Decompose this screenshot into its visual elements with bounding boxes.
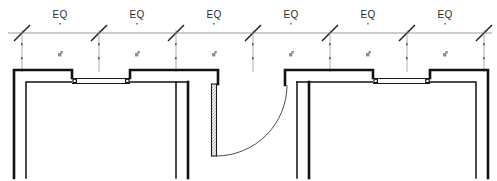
- eq-anchor-dot: [444, 23, 446, 25]
- dimension-string-group: EQ EQ EQ EQ EQ EQ: [8, 9, 492, 72]
- extension-node-dot: [98, 57, 100, 59]
- door-swing-arc: [217, 85, 288, 156]
- bay-annotation-glyph: [135, 51, 140, 56]
- eq-dimension-label: EQ: [52, 9, 67, 20]
- pier-left-end-outer: [14, 70, 72, 178]
- wall-plan-group: [14, 70, 488, 178]
- eq-anchor-dot: [213, 23, 215, 25]
- eq-anchor-dot: [136, 23, 138, 25]
- extension-node-dot: [483, 43, 485, 45]
- eq-dimension-label: EQ: [360, 9, 375, 20]
- bay-annotation-glyph: [443, 51, 448, 56]
- extension-node-dot: [175, 43, 177, 45]
- eq-dimension-label: EQ: [129, 9, 144, 20]
- eq-dimension-label: EQ: [437, 9, 452, 20]
- mullion-node: [374, 79, 377, 82]
- mullion-node: [126, 79, 129, 82]
- eq-anchor-dot: [367, 23, 369, 25]
- pier-inner-left-stem-left: [130, 82, 176, 178]
- extension-node-dot: [329, 43, 331, 45]
- pier-right-end-outer: [430, 70, 488, 178]
- extension-node-dot: [406, 57, 408, 59]
- extension-node-dot: [21, 57, 23, 59]
- floor-plan-svg: EQ EQ EQ EQ EQ EQ: [0, 0, 497, 181]
- extension-node-dot: [98, 43, 100, 45]
- extension-node-dot: [483, 57, 485, 59]
- extension-node-dot: [329, 57, 331, 59]
- bay-annotation-glyph: [212, 51, 217, 56]
- bay-annotation-glyph: [58, 51, 63, 56]
- mullion-node: [73, 79, 76, 82]
- eq-dimension-label: EQ: [206, 9, 221, 20]
- eq-dimension-label: EQ: [283, 9, 298, 20]
- bay-annotation-glyph: [289, 51, 294, 56]
- door-leaf[interactable]: [212, 84, 217, 156]
- bay-annotation-glyph: [366, 51, 371, 56]
- extension-node-dot: [252, 57, 254, 59]
- extension-node-dot: [406, 43, 408, 45]
- eq-anchor-dot: [290, 23, 292, 25]
- pier-left-end-inner: [26, 82, 72, 178]
- mullion-node: [426, 79, 429, 82]
- architectural-drawing-canvas: EQ EQ EQ EQ EQ EQ: [0, 0, 497, 181]
- extension-node-dot: [21, 43, 23, 45]
- extension-node-dot: [252, 43, 254, 45]
- eq-anchor-dot: [59, 23, 61, 25]
- extension-node-dot: [175, 57, 177, 59]
- pier-right-end-inner: [430, 82, 476, 178]
